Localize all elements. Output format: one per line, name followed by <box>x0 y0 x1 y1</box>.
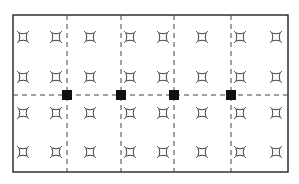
luminaire-icon <box>124 31 136 43</box>
luminaire-icon <box>234 71 246 83</box>
luminaire-icon <box>196 31 208 43</box>
luminaire-icon <box>196 146 208 158</box>
luminaire-icon <box>196 71 208 83</box>
junction-box-icon <box>169 90 179 100</box>
luminaire-icon <box>157 71 169 83</box>
grid-plan-diagram <box>0 0 299 184</box>
luminaire-icon <box>84 31 96 43</box>
luminaire-icon <box>50 146 62 158</box>
luminaire-icon <box>124 71 136 83</box>
luminaire-icon <box>234 31 246 43</box>
luminaire-icon <box>50 107 62 119</box>
luminaire-icon <box>157 31 169 43</box>
junction-box-icon <box>226 90 236 100</box>
luminaire-icon <box>270 107 282 119</box>
luminaire-icon <box>84 107 96 119</box>
luminaire-icon <box>270 31 282 43</box>
luminaire-icon <box>157 146 169 158</box>
luminaire-icon <box>157 107 169 119</box>
junction-box-icon <box>116 90 126 100</box>
luminaire-icon <box>270 146 282 158</box>
luminaire-icon <box>84 71 96 83</box>
junction-box-icon <box>62 90 72 100</box>
luminaire-icon <box>17 107 29 119</box>
luminaire-icon <box>196 107 208 119</box>
luminaire-icon <box>234 146 246 158</box>
luminaire-icon <box>124 146 136 158</box>
luminaire-icon <box>17 31 29 43</box>
luminaire-icon <box>17 146 29 158</box>
luminaire-icon <box>17 71 29 83</box>
luminaire-icon <box>84 146 96 158</box>
luminaire-icon <box>124 107 136 119</box>
luminaire-icon <box>234 107 246 119</box>
luminaire-icon <box>50 31 62 43</box>
luminaire-icon <box>50 71 62 83</box>
luminaire-icon <box>270 71 282 83</box>
